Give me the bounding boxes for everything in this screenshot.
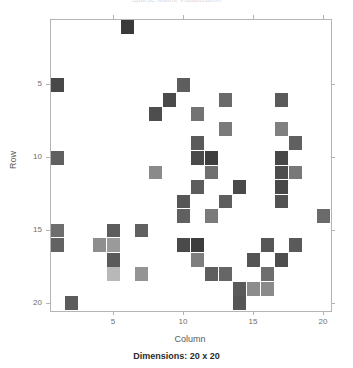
matrix-cell — [219, 195, 232, 209]
matrix-cell — [177, 209, 190, 223]
matrix-cell — [261, 238, 274, 252]
matrix-cell — [191, 238, 204, 252]
matrix-cell — [177, 195, 190, 209]
matrix-cell — [107, 224, 120, 238]
matrix-cell — [177, 78, 190, 92]
y-axis-tick-right — [331, 157, 335, 158]
matrix-cell — [219, 267, 232, 281]
matrix-cell — [163, 93, 176, 107]
matrix-cell — [275, 93, 288, 107]
y-axis-tick — [46, 84, 50, 85]
matrix-cell — [121, 20, 134, 34]
matrix-cell — [135, 224, 148, 238]
matrix-cell — [191, 253, 204, 267]
matrix-cell — [275, 253, 288, 267]
y-axis-tick — [46, 303, 50, 304]
dimensions-caption: Dimensions: 20 x 20 — [0, 351, 353, 361]
x-axis-tick-label: 5 — [101, 317, 125, 326]
x-axis-tick-top — [323, 15, 324, 19]
matrix-plot-area — [51, 20, 331, 311]
y-axis-tick-right — [331, 230, 335, 231]
matrix-cell — [191, 136, 204, 150]
matrix-cell — [107, 253, 120, 267]
matrix-cell — [135, 267, 148, 281]
matrix-cell — [247, 282, 260, 296]
plot-frame — [50, 19, 332, 312]
figure-title: Sparse Matrix Visualization — [0, 0, 353, 3]
matrix-cell — [289, 238, 302, 252]
matrix-cell — [275, 151, 288, 165]
matrix-cell — [177, 238, 190, 252]
matrix-cell — [149, 166, 162, 180]
matrix-cell — [205, 166, 218, 180]
matrix-cell — [51, 151, 64, 165]
matrix-cell — [261, 282, 274, 296]
matrix-cell — [317, 209, 330, 223]
matrix-cell — [219, 93, 232, 107]
matrix-cell — [275, 180, 288, 194]
matrix-cell — [191, 151, 204, 165]
matrix-cell — [247, 253, 260, 267]
matrix-cell — [275, 122, 288, 136]
sparse-matrix-figure: Sparse Matrix Visualization 510152051015… — [0, 0, 353, 368]
y-axis-tick-label: 10 — [18, 152, 42, 161]
matrix-cell — [205, 209, 218, 223]
matrix-cell — [107, 238, 120, 252]
x-axis-tick-label: 15 — [241, 317, 265, 326]
matrix-cell — [289, 166, 302, 180]
y-axis-label: Row — [8, 130, 18, 190]
y-axis-tick — [46, 157, 50, 158]
matrix-cell — [93, 238, 106, 252]
x-axis-tick-top — [183, 15, 184, 19]
matrix-cell — [219, 122, 232, 136]
matrix-cell — [289, 136, 302, 150]
matrix-cell — [205, 151, 218, 165]
y-axis-tick-right — [331, 84, 335, 85]
y-axis-tick-label: 20 — [18, 298, 42, 307]
y-axis-tick-label: 15 — [18, 225, 42, 234]
y-axis-tick-label: 5 — [18, 79, 42, 88]
y-axis-tick — [46, 230, 50, 231]
matrix-cell — [65, 296, 78, 310]
matrix-cell — [275, 166, 288, 180]
x-axis-tick — [183, 311, 184, 315]
matrix-cell — [51, 224, 64, 238]
matrix-cell — [233, 296, 246, 310]
matrix-cell — [233, 180, 246, 194]
matrix-cell — [233, 282, 246, 296]
matrix-cell — [51, 238, 64, 252]
matrix-cell — [261, 267, 274, 281]
matrix-cell — [149, 107, 162, 121]
x-axis-tick — [323, 311, 324, 315]
x-axis-tick-top — [253, 15, 254, 19]
matrix-cell — [51, 78, 64, 92]
x-axis-tick — [113, 311, 114, 315]
matrix-cell — [191, 180, 204, 194]
matrix-cell — [205, 267, 218, 281]
matrix-cell — [275, 195, 288, 209]
x-axis-tick-top — [113, 15, 114, 19]
x-axis-tick-label: 10 — [171, 317, 195, 326]
matrix-cell — [107, 267, 120, 281]
x-axis-label: Column — [50, 334, 330, 344]
matrix-cell — [191, 107, 204, 121]
y-axis-tick-right — [331, 303, 335, 304]
x-axis-tick-label: 20 — [311, 317, 335, 326]
x-axis-tick — [253, 311, 254, 315]
